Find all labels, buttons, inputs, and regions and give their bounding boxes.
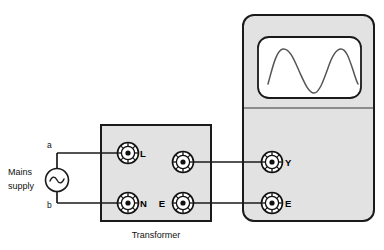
terminal-label-N: N (140, 198, 147, 209)
mains-supply-label-line1: Mains (8, 167, 33, 177)
terminal-label-L: L (140, 148, 146, 159)
mains-supply-label-line2: supply (8, 181, 35, 191)
terminal-scope-Y[interactable] (262, 152, 283, 173)
oscilloscope-unit (243, 15, 374, 221)
terminal-transformer-N[interactable] (118, 193, 139, 214)
terminal-transformer-secondary-earth[interactable] (173, 193, 194, 214)
terminal-scope-E[interactable] (262, 193, 283, 214)
circuit-diagram: Mains supply a b L N E Y E Transformer (0, 0, 384, 250)
oscilloscope-screen (258, 37, 361, 98)
diagram-canvas: Mains supply a b L N E Y E Transformer (0, 0, 384, 250)
terminal-label-transformer-E: E (159, 198, 165, 209)
mains-supply-source (46, 169, 69, 192)
transformer-caption: Transformer (132, 230, 181, 240)
terminal-label-scope-E: E (285, 198, 291, 209)
terminal-transformer-L[interactable] (118, 143, 139, 164)
terminal-label-scope-Y: Y (285, 157, 292, 168)
source-terminal-b-label: b (47, 200, 52, 210)
terminal-transformer-secondary-out[interactable] (173, 152, 194, 173)
source-terminal-a-label: a (47, 140, 52, 150)
